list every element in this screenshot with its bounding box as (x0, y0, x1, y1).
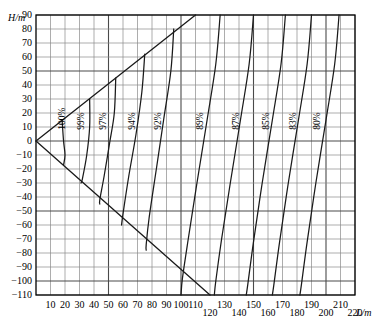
y-tick-label: 40 (22, 79, 32, 90)
y-axis-label: H/m (8, 12, 25, 23)
y-tick-label: 20 (22, 107, 32, 118)
x-tick-label: 110 (188, 299, 203, 310)
x-tick-label: 50 (104, 299, 114, 310)
y-tick-label: −80 (16, 247, 32, 258)
x-tick-label: 40 (89, 299, 99, 310)
x-tick-label: 60 (118, 299, 128, 310)
y-tick-label: 30 (22, 93, 32, 104)
x-tick-label: 210 (333, 299, 348, 310)
x-tick-label: 140 (232, 307, 247, 318)
y-tick-label: 0 (27, 135, 32, 146)
x-tick-label: 170 (275, 299, 290, 310)
curve-label-100pct: 100% (57, 108, 67, 130)
x-tick-label: 130 (217, 299, 232, 310)
y-tick-label: 10 (22, 121, 32, 132)
x-tick-label: 180 (290, 307, 305, 318)
y-tick-label: 70 (22, 37, 32, 48)
y-tick-label: −60 (16, 219, 32, 230)
y-tick-label: −20 (16, 163, 32, 174)
x-tick-label: 150 (246, 299, 261, 310)
y-tick-label: −30 (16, 177, 32, 188)
x-tick-label: 190 (304, 299, 319, 310)
chart-plot: 100%99%97%94%92%89%87%85%83%80%908070605… (0, 0, 385, 329)
x-tick-label: 90 (162, 299, 172, 310)
y-tick-label: 80 (22, 23, 32, 34)
y-tick-label: −110 (12, 289, 32, 300)
curve-label-92pct: 92% (153, 112, 163, 130)
y-tick-label: −50 (16, 205, 32, 216)
curve-label-80pct: 80% (312, 112, 322, 130)
curve-label-87pct: 87% (231, 112, 241, 130)
curve-label-89pct: 89% (195, 112, 205, 130)
curve-label-97pct: 97% (98, 112, 108, 130)
y-tick-label: 50 (22, 65, 32, 76)
curve-label-83pct: 83% (288, 112, 298, 130)
x-tick-label: 70 (133, 299, 143, 310)
x-tick-label: 10 (46, 299, 56, 310)
y-tick-label: 60 (22, 51, 32, 62)
x-tick-label: 20 (60, 299, 70, 310)
x-axis-label: L/m (356, 307, 372, 318)
y-tick-label: −70 (16, 233, 32, 244)
x-tick-label: 200 (319, 307, 334, 318)
x-tick-label: 120 (203, 307, 218, 318)
curve-label-94pct: 94% (127, 112, 137, 130)
y-tick-label: −10 (16, 149, 32, 160)
x-tick-label: 80 (147, 299, 157, 310)
x-tick-label: 30 (75, 299, 85, 310)
y-tick-label: −90 (16, 261, 32, 272)
x-tick-label: 100 (174, 299, 189, 310)
y-tick-label: −40 (16, 191, 32, 202)
curve-label-85pct: 85% (261, 112, 271, 130)
x-tick-label: 160 (261, 307, 276, 318)
chart-container: 100%99%97%94%92%89%87%85%83%80%908070605… (0, 0, 385, 329)
y-tick-label: −100 (11, 275, 32, 286)
curve-label-99pct: 99% (76, 112, 86, 130)
